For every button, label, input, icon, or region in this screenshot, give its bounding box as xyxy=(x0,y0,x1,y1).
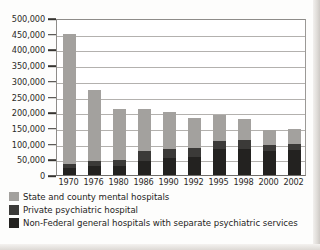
x-axis-tick-label: 1980 xyxy=(108,177,128,187)
bar-segment[interactable] xyxy=(288,150,301,175)
bar-segment[interactable] xyxy=(163,149,176,158)
legend-label: State and county mental hospitals xyxy=(23,192,169,202)
legend-label: Non-Federal general hospitals with separ… xyxy=(23,218,298,228)
bar-segment[interactable] xyxy=(163,112,176,149)
plot-area xyxy=(56,19,306,176)
bar-group[interactable] xyxy=(213,18,226,175)
y-axis-tick xyxy=(48,160,56,162)
y-axis-tick xyxy=(48,34,56,36)
y-axis-tick-label: 350,000 xyxy=(12,61,45,71)
bar-segment[interactable] xyxy=(88,166,101,175)
scan-edge-bottom xyxy=(0,244,320,250)
bar-segment[interactable] xyxy=(188,157,201,175)
y-axis-tick-label: 50,000 xyxy=(17,155,45,165)
bar-chart: 050,000100,000150,000200,000250,000300,0… xyxy=(0,0,313,186)
x-axis-tick-label: 1970 xyxy=(58,177,78,187)
y-axis-tick xyxy=(48,144,56,146)
x-axis-tick-label: 1998 xyxy=(233,177,253,187)
bar-group[interactable] xyxy=(288,18,301,175)
bar-segment[interactable] xyxy=(238,140,251,148)
bar-segment[interactable] xyxy=(213,149,226,175)
y-axis-tick xyxy=(48,65,56,67)
x-axis-tick-label: 1995 xyxy=(208,177,228,187)
legend-swatch xyxy=(9,205,19,215)
x-axis-tick-label: 1990 xyxy=(158,177,178,187)
y-axis-tick-label: 0 xyxy=(40,171,45,181)
y-axis-tick-label: 500,000 xyxy=(12,14,45,24)
bar-segment[interactable] xyxy=(88,161,101,166)
bar-group[interactable] xyxy=(138,18,151,175)
y-axis-tick-label: 150,000 xyxy=(12,124,45,134)
y-axis-tick xyxy=(48,128,56,130)
y-axis-tick xyxy=(48,81,56,83)
bar-group[interactable] xyxy=(63,18,76,175)
bar-series-container xyxy=(57,20,305,175)
y-axis-tick-label: 400,000 xyxy=(12,45,45,55)
y-axis-tick xyxy=(48,97,56,99)
y-axis-tick xyxy=(48,112,56,114)
bar-segment[interactable] xyxy=(288,144,301,150)
y-axis-tick xyxy=(48,175,56,177)
bar-group[interactable] xyxy=(88,18,101,175)
bar-segment[interactable] xyxy=(263,151,276,175)
bar-segment[interactable] xyxy=(138,161,151,175)
bar-segment[interactable] xyxy=(213,115,226,140)
bar-segment[interactable] xyxy=(263,145,276,151)
bar-group[interactable] xyxy=(238,18,251,175)
bar-segment[interactable] xyxy=(238,149,251,175)
bar-group[interactable] xyxy=(188,18,201,175)
bar-segment[interactable] xyxy=(63,164,76,168)
x-axis-tick-label: 1992 xyxy=(183,177,203,187)
legend-item[interactable]: Non-Federal general hospitals with separ… xyxy=(9,216,309,229)
x-axis-tick-label: 1976 xyxy=(83,177,103,187)
bar-segment[interactable] xyxy=(263,130,276,145)
y-axis-tick xyxy=(48,50,56,52)
legend-swatch xyxy=(9,192,19,202)
bar-segment[interactable] xyxy=(238,119,251,141)
chart-page: 050,000100,000150,000200,000250,000300,0… xyxy=(0,0,320,250)
x-axis-tick-label: 2000 xyxy=(258,177,278,187)
bar-segment[interactable] xyxy=(213,141,226,149)
legend-item[interactable]: State and county mental hospitals xyxy=(9,190,309,203)
bar-segment[interactable] xyxy=(63,168,76,175)
bar-segment[interactable] xyxy=(138,151,151,160)
y-axis-tick-label: 250,000 xyxy=(12,93,45,103)
legend-label: Private psychiatric hospital xyxy=(23,205,138,215)
chart-legend: State and county mental hospitalsPrivate… xyxy=(9,190,309,230)
bar-segment[interactable] xyxy=(188,148,201,157)
y-axis-tick-label: 300,000 xyxy=(12,77,45,87)
y-axis-tick xyxy=(48,18,56,20)
bar-segment[interactable] xyxy=(88,90,101,161)
y-axis: 050,000100,000150,000200,000250,000300,0… xyxy=(0,0,56,186)
bar-segment[interactable] xyxy=(163,158,176,175)
x-axis: 1970197619801986199019921995199820002002 xyxy=(56,177,306,191)
x-axis-tick-label: 2002 xyxy=(283,177,303,187)
scan-edge-right xyxy=(313,0,320,250)
x-axis-tick-label: 1986 xyxy=(133,177,153,187)
legend-item[interactable]: Private psychiatric hospital xyxy=(9,203,309,216)
bar-group[interactable] xyxy=(263,18,276,175)
bar-segment[interactable] xyxy=(188,118,201,148)
y-axis-tick-label: 200,000 xyxy=(12,108,45,118)
y-axis-tick-label: 450,000 xyxy=(12,30,45,40)
bar-group[interactable] xyxy=(163,18,176,175)
bar-segment[interactable] xyxy=(113,109,126,160)
bar-segment[interactable] xyxy=(138,109,151,151)
bar-segment[interactable] xyxy=(63,34,76,164)
bar-segment[interactable] xyxy=(288,129,301,144)
y-axis-tick-label: 100,000 xyxy=(12,140,45,150)
bar-group[interactable] xyxy=(113,18,126,175)
bar-segment[interactable] xyxy=(113,166,126,175)
bar-segment[interactable] xyxy=(113,160,126,166)
legend-swatch xyxy=(9,218,19,228)
